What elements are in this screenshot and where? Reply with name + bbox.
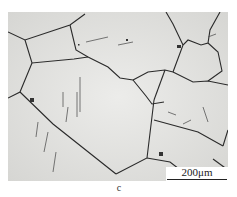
panel-label: c xyxy=(114,182,124,193)
scale-bar-label: 200μm xyxy=(166,167,228,178)
scale-bar: 200μm xyxy=(166,167,228,181)
scale-bar-line xyxy=(167,179,227,180)
grain-boundaries xyxy=(8,12,228,181)
micrograph-image xyxy=(8,12,228,181)
